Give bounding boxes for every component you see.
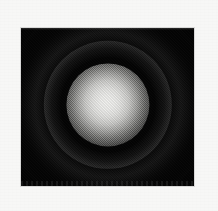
figure-caption <box>0 0 1 1</box>
airy-pattern <box>21 28 194 186</box>
diffraction-image-panel: Concentric diffraction rings with bright… <box>21 28 194 186</box>
figure-root: Concentric diffraction rings with bright… <box>0 0 218 211</box>
central-airy-disc <box>66 63 149 146</box>
